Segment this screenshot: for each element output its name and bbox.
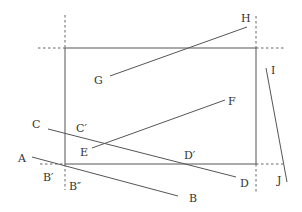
label-b-prime: B′ (43, 171, 54, 184)
label-c-prime: C′ (76, 122, 87, 135)
label-d: D (240, 177, 249, 190)
segment-cd (48, 129, 236, 177)
label-a: A (17, 152, 27, 165)
geometry-diagram: A B′ B″ B C C′ D D′ E F G H I J (0, 0, 302, 212)
segment-ij (266, 68, 287, 182)
label-g: G (94, 74, 103, 87)
label-b: B (189, 192, 197, 205)
label-e: E (80, 146, 88, 159)
label-b-double-prime: B″ (69, 180, 81, 193)
label-j: J (276, 174, 281, 187)
label-c: C (32, 118, 40, 131)
segment-ef (92, 100, 225, 148)
label-i: I (271, 64, 275, 77)
line-segments (32, 27, 287, 196)
segment-ab (32, 157, 178, 196)
label-h: H (241, 12, 251, 25)
label-f: F (228, 95, 236, 108)
segment-gh (110, 27, 247, 76)
dashed-extensions (38, 15, 285, 192)
label-d-prime: D′ (184, 149, 196, 162)
